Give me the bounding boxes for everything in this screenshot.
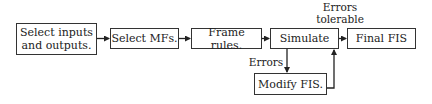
node-label: Final FIS: [356, 32, 407, 45]
node-frame-rules: Frame rules.: [191, 28, 262, 49]
node-modify-fis: Modify FIS.: [254, 73, 327, 95]
node-final-fis: Final FIS: [347, 28, 416, 49]
edge-label-text: Errors: [249, 56, 283, 68]
node-label-line1: Select inputs: [20, 26, 93, 39]
edge-label-errors: Errors: [248, 56, 284, 68]
edge-label-line1: Errors: [312, 1, 368, 13]
node-label: Simulate: [280, 32, 330, 45]
node-simulate: Simulate: [270, 28, 339, 49]
node-label: Select MFs.: [111, 32, 177, 45]
node-label: Frame rules.: [192, 26, 261, 52]
node-select-inputs-outputs: Select inputs and outputs.: [16, 23, 97, 55]
node-label: Modify FIS.: [258, 78, 323, 91]
edge-label-errors-tolerable: Errors tolerable: [312, 1, 368, 25]
node-select-mfs: Select MFs.: [110, 28, 179, 49]
node-label-line2: and outputs.: [20, 39, 93, 52]
edge-label-line2: tolerable: [312, 13, 368, 25]
